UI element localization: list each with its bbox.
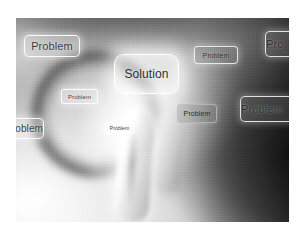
- problem-top-right-label: Problem: [203, 52, 230, 59]
- problem-right-edge-top-label: Pro: [266, 38, 283, 50]
- photo-palm-highlight: [82, 87, 191, 201]
- problem-top-left-label: Problem: [31, 40, 73, 52]
- problem-right-edge-mid[interactable]: Problem: [240, 96, 289, 122]
- problem-mid-left[interactable]: Problem: [61, 89, 98, 104]
- screenshot-canvas: ProblemSolutionProblemProProblemProblemP…: [0, 0, 305, 243]
- finger-crease: [126, 124, 138, 206]
- problem-right-edge-mid-label: Problem: [241, 103, 283, 115]
- problem-fingertip[interactable]: Problem: [105, 122, 134, 134]
- problem-shadowed-center-right-label: Problem: [184, 110, 211, 117]
- problem-top-left[interactable]: Problem: [24, 35, 80, 57]
- problem-fingertip-label: Problem: [110, 125, 129, 131]
- problem-right-edge-top[interactable]: Pro: [265, 31, 289, 57]
- problem-top-right[interactable]: Problem: [194, 46, 238, 64]
- problem-left-edge[interactable]: oblem: [16, 118, 44, 139]
- problem-mid-left-label: Problem: [68, 94, 91, 100]
- problem-shadowed-center-right[interactable]: Problem: [177, 104, 217, 123]
- solution-center-label: Solution: [124, 67, 168, 81]
- problem-left-edge-label: oblem: [16, 123, 43, 134]
- solution-center[interactable]: Solution: [114, 54, 179, 94]
